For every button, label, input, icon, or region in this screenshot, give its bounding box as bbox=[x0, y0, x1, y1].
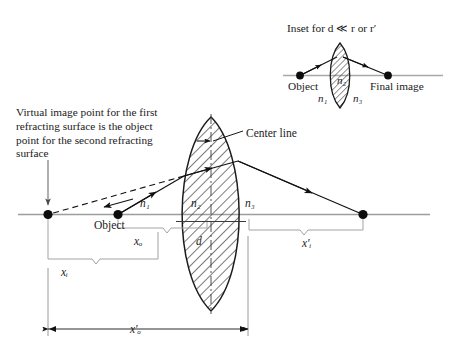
xop-arrow-right bbox=[240, 326, 247, 332]
diagram-svg bbox=[0, 0, 452, 351]
inset-object-label: Object bbox=[288, 80, 318, 94]
virtual-ray-arrowhead bbox=[104, 199, 133, 207]
object-label: Object bbox=[94, 218, 125, 232]
label-n2: n₂ bbox=[191, 196, 201, 210]
label-n3: n₃ bbox=[245, 196, 255, 210]
xip-dimension-brace bbox=[249, 219, 363, 235]
virtual-ray-extension bbox=[48, 176, 184, 215]
inset-title: Inset for d ≪ r or r′ bbox=[287, 22, 376, 36]
center-line-label: Center line bbox=[246, 126, 297, 140]
final-image-point bbox=[358, 210, 367, 219]
inset-label-n2: n₂ bbox=[337, 74, 346, 87]
virtual-image-caption: Virtual image point for the first refrac… bbox=[16, 106, 176, 161]
label-xo-prime: x′ₒ bbox=[130, 322, 141, 336]
label-n1: n₁ bbox=[140, 196, 150, 210]
figure-canvas: Inset for d ≪ r or r′ Object Final image… bbox=[0, 0, 452, 351]
inset-final-image-point bbox=[384, 72, 392, 80]
inset-final-image-label: Final image bbox=[370, 80, 424, 94]
label-xi: xᵢ bbox=[61, 265, 68, 279]
inset-object-point bbox=[296, 72, 304, 80]
label-xo: xₒ bbox=[134, 234, 142, 248]
inset-label-n3: n₃ bbox=[353, 92, 362, 105]
label-xi-prime: x′ᵢ bbox=[302, 236, 311, 250]
refracted-ray-arrowhead bbox=[238, 161, 312, 193]
inset-label-n1: n₁ bbox=[318, 92, 327, 105]
xop-arrow-left bbox=[49, 326, 56, 332]
virtual-image-point bbox=[43, 210, 52, 219]
label-d: d bbox=[196, 234, 202, 248]
incident-ray-arrowhead bbox=[118, 192, 156, 215]
